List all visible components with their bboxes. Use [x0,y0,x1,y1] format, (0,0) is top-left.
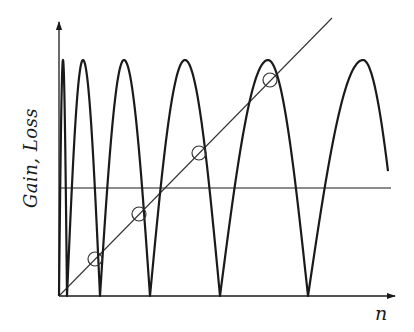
intersection-circle-marker [263,73,277,87]
gain-curve [59,60,388,296]
gain-oscillation-path [59,60,388,296]
diagram-canvas [0,0,414,332]
x-axis-label: n [375,302,387,324]
y-axis-label: Gain, Loss [20,108,41,208]
